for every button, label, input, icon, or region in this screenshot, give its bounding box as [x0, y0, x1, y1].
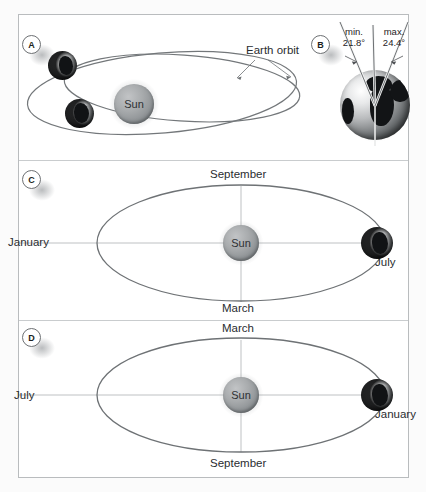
panel-a-earth-lower	[65, 99, 94, 128]
panel-c-earth	[361, 227, 393, 259]
panel-d-label-left: July	[14, 389, 34, 401]
panel-d-label-bottom: September	[210, 457, 266, 469]
panel-a-earth-lower-landmass	[74, 103, 89, 123]
panel-b-badge: B	[311, 35, 330, 54]
panel-d-badge: D	[22, 328, 41, 347]
panel-a-sun-label: Sun	[124, 98, 144, 110]
panel-a-badge: A	[22, 35, 41, 54]
panel-c-label-bottom: March	[222, 302, 254, 314]
figure-canvas: A Earth orbit Sun B	[0, 0, 426, 492]
panel-a-earth-upper	[48, 51, 77, 80]
panel-a-earth-orbit-label: Earth orbit	[246, 44, 299, 56]
panel-c-badge: C	[22, 170, 41, 189]
panel-a-sun-disc: Sun	[114, 84, 154, 124]
panel-c-label-top: September	[210, 168, 266, 180]
panel-b-max-title: max.	[378, 27, 410, 37]
panel-b-min-title: min.	[339, 27, 369, 37]
panel-d-earth	[361, 379, 393, 411]
panel-d-sun: Sun	[209, 363, 273, 427]
panel-c-label-left: January	[8, 236, 49, 248]
panel-d-sun-disc: Sun	[223, 377, 259, 413]
panel-d-sun-label: Sun	[231, 389, 251, 401]
panel-c-sun: Sun	[209, 211, 273, 275]
panel-b-max-value: 24.4°	[375, 38, 413, 48]
panel-c-sun-label: Sun	[231, 237, 251, 249]
panel-d-label-top: March	[222, 322, 254, 334]
panel-d-earth-landmass	[372, 384, 388, 406]
panel-c-earth-landmass	[372, 232, 388, 254]
panel-a-sun: Sun	[98, 68, 170, 140]
panel-b-min-value: 21.8°	[336, 38, 372, 48]
panel-c-sun-disc: Sun	[223, 225, 259, 261]
panel-a-earth-upper-landmass	[59, 56, 73, 75]
